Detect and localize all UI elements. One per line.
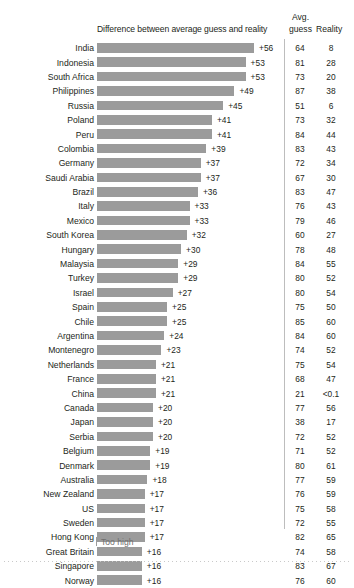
row-bar [97, 388, 156, 398]
bottom-dotted-rule [4, 561, 350, 562]
bar-fill [97, 561, 142, 571]
bar-fill [97, 489, 145, 499]
table-row: Japan+203817 [0, 415, 354, 429]
row-bar [97, 173, 201, 183]
row-country-label: Russia [0, 101, 94, 111]
row-reality-value: 8 [318, 43, 344, 53]
row-avg-guess-value: 83 [289, 144, 311, 154]
row-reality-value: 56 [318, 403, 344, 413]
row-difference-value: +41 [217, 115, 231, 125]
table-row: Israel+278054 [0, 286, 354, 300]
table-row: Denmark+198061 [0, 458, 354, 472]
row-avg-guess-value: 84 [289, 259, 311, 269]
row-bar [97, 216, 190, 226]
row-bar [97, 86, 234, 96]
row-bar [97, 273, 178, 283]
row-country-label: South Korea [0, 230, 94, 240]
table-row: Canada+207756 [0, 401, 354, 415]
row-difference-value: +27 [178, 288, 192, 298]
bar-fill [97, 259, 178, 269]
row-avg-guess-value: 80 [289, 288, 311, 298]
row-avg-guess-value: 73 [289, 72, 311, 82]
row-bar [97, 331, 164, 341]
chart-rows: India+56648Indonesia+538128South Africa+… [0, 41, 354, 588]
row-country-label: Argentina [0, 331, 94, 341]
row-difference-value: +25 [172, 302, 186, 312]
row-country-label: Hong Kong [0, 532, 94, 542]
row-avg-guess-value: 85 [289, 317, 311, 327]
row-avg-guess-value: 74 [289, 547, 311, 557]
bar-fill [97, 173, 201, 183]
row-country-label: Chile [0, 317, 94, 327]
row-bar [97, 575, 142, 585]
row-reality-value: 47 [318, 187, 344, 197]
row-bar [97, 561, 142, 571]
row-difference-value: +23 [166, 345, 180, 355]
row-country-label: Japan [0, 417, 94, 427]
row-reality-value: 52 [318, 273, 344, 283]
row-country-label: Singapore [0, 561, 94, 571]
bar-fill [97, 518, 145, 528]
row-difference-value: +18 [152, 475, 166, 485]
row-bar [97, 115, 212, 125]
row-bar [97, 518, 145, 528]
row-difference-value: +17 [150, 532, 164, 542]
row-bar [97, 201, 190, 211]
table-row: Turkey+298052 [0, 271, 354, 285]
table-row: New Zealand+177659 [0, 487, 354, 501]
row-reality-value: 60 [318, 576, 344, 586]
row-difference-value: +17 [150, 518, 164, 528]
row-difference-value: +21 [161, 374, 175, 384]
table-row: Great Britain+167458 [0, 545, 354, 559]
row-avg-guess-value: 38 [289, 417, 311, 427]
row-difference-value: +19 [155, 446, 169, 456]
table-row: Russia+45516 [0, 99, 354, 113]
row-country-label: Hungary [0, 245, 94, 255]
row-bar [97, 417, 153, 427]
bar-fill [97, 432, 153, 442]
row-difference-value: +29 [183, 273, 197, 283]
row-difference-value: +17 [150, 504, 164, 514]
row-avg-guess-value: 81 [289, 58, 311, 68]
table-row: Netherlands+217554 [0, 358, 354, 372]
row-difference-value: +19 [155, 461, 169, 471]
row-bar [97, 302, 167, 312]
bar-fill [97, 417, 153, 427]
row-difference-value: +25 [172, 317, 186, 327]
row-avg-guess-value: 72 [289, 432, 311, 442]
row-avg-guess-value: 71 [289, 446, 311, 456]
bar-fill [97, 187, 198, 197]
row-country-label: Israel [0, 288, 94, 298]
row-difference-value: +30 [186, 245, 200, 255]
row-difference-value: +41 [217, 130, 231, 140]
row-reality-value: 6 [318, 101, 344, 111]
bar-fill [97, 302, 167, 312]
bar-fill [97, 216, 190, 226]
row-bar [97, 446, 150, 456]
row-bar [97, 360, 156, 370]
row-country-label: Peru [0, 130, 94, 140]
row-bar [97, 374, 156, 384]
row-avg-guess-value: 80 [289, 461, 311, 471]
row-country-label: Spain [0, 302, 94, 312]
row-avg-guess-value: 68 [289, 374, 311, 384]
row-difference-value: +56 [259, 43, 273, 53]
bar-fill [97, 158, 201, 168]
row-difference-value: +20 [158, 403, 172, 413]
row-difference-value: +24 [169, 331, 183, 341]
column-header-difference: Difference between average guess and rea… [97, 24, 267, 34]
table-row: Belgium+197152 [0, 444, 354, 458]
bar-fill [97, 403, 153, 413]
row-country-label: Colombia [0, 144, 94, 154]
row-country-label: South Africa [0, 72, 94, 82]
row-bar [97, 43, 254, 53]
row-avg-guess-value: 72 [289, 518, 311, 528]
row-bar [97, 432, 153, 442]
row-difference-value: +33 [195, 216, 209, 226]
row-country-label: India [0, 43, 94, 53]
legend-tick-icon [96, 537, 97, 546]
row-avg-guess-value: 79 [289, 216, 311, 226]
bar-fill [97, 374, 156, 384]
table-row: Australia+187759 [0, 473, 354, 487]
table-row: US+177558 [0, 502, 354, 516]
